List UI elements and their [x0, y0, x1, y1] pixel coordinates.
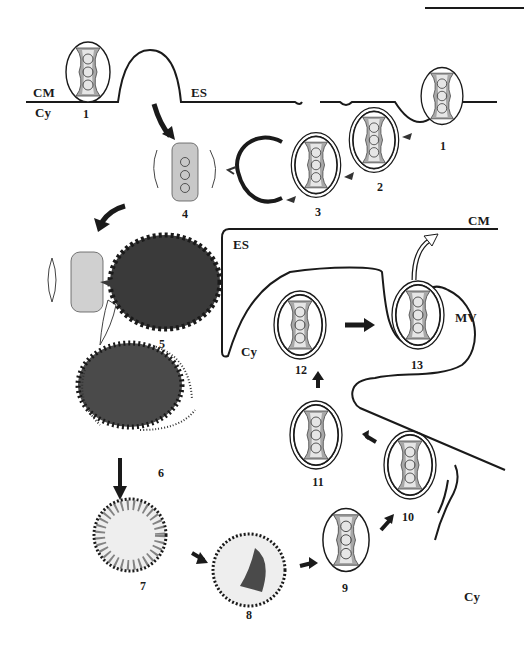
- label-es-top: ES: [191, 86, 207, 99]
- label-mv: MV: [455, 311, 477, 324]
- arrow-to-stage-5: [102, 206, 125, 222]
- germinating-spore-stage-5: [48, 235, 220, 345]
- spore-stage-3: [291, 133, 340, 198]
- stage-label-10: 10: [402, 511, 414, 523]
- vacuole-ring: [237, 138, 282, 202]
- spore-stage-10: [384, 431, 436, 499]
- label-cm-top: CM: [33, 86, 55, 99]
- life-cycle-diagram: [0, 0, 524, 650]
- label-cy-top: Cy: [35, 106, 51, 119]
- stage-label-7: 7: [140, 580, 146, 592]
- label-es-mid: ES: [233, 238, 249, 251]
- stage-label-4: 4: [182, 208, 188, 220]
- plasmodium-stage-6: [78, 343, 195, 430]
- spore-stage-9: [323, 509, 369, 572]
- label-cm-mid: CM: [468, 214, 490, 227]
- spore-stage-2: [349, 108, 398, 173]
- stage-label-6: 6: [158, 467, 164, 479]
- stage-label-12: 12: [295, 364, 307, 376]
- stage-label-2: 2: [377, 181, 383, 193]
- spore-stage-13: [392, 281, 444, 349]
- arrow-9-10: [381, 520, 390, 530]
- arrow-3-ring: [286, 196, 296, 203]
- membrane-fragments: [435, 465, 458, 540]
- stage-label-11: 11: [312, 476, 323, 488]
- arrow-1-2: [402, 133, 412, 140]
- spore-stage-1-left: [66, 42, 110, 102]
- stage-label-8: 8: [246, 609, 252, 621]
- spore-stage-4: [154, 143, 216, 201]
- label-cy-bottom: Cy: [464, 590, 480, 603]
- stage-label-1-left: 1: [83, 108, 89, 120]
- label-cy-mid: Cy: [241, 345, 257, 358]
- spore-stage-1-right: [421, 68, 463, 125]
- small-arrow-4: [228, 167, 236, 174]
- stage-label-3: 3: [315, 206, 321, 218]
- spore-stage-12: [274, 291, 326, 359]
- stage-label-5: 5: [159, 338, 165, 350]
- arrow-2-3: [344, 172, 354, 180]
- spore-stage-11: [290, 401, 342, 469]
- stage-label-9: 9: [342, 582, 348, 594]
- stage-label-1-right: 1: [440, 140, 446, 152]
- stage-label-13: 13: [411, 359, 423, 371]
